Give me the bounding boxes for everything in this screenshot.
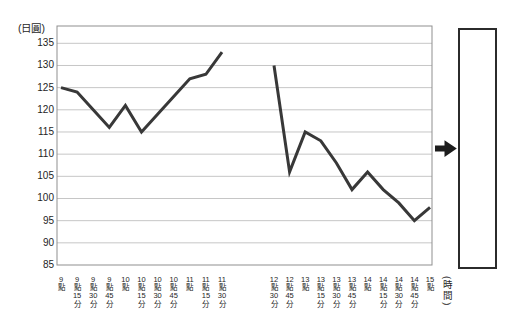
x-tick-label: 11 點 30 分	[207, 276, 237, 309]
price-line-morning-session	[61, 52, 222, 132]
currency-time-chart: (日圓) 135130125120115110105100959085 9 點9…	[0, 0, 524, 328]
x-axis-title: (時間)	[440, 276, 454, 306]
empty-annotation-box	[458, 28, 497, 269]
price-line-afternoon-session	[274, 66, 430, 221]
arrow-right-icon	[435, 140, 457, 157]
plot-frame	[57, 26, 432, 265]
